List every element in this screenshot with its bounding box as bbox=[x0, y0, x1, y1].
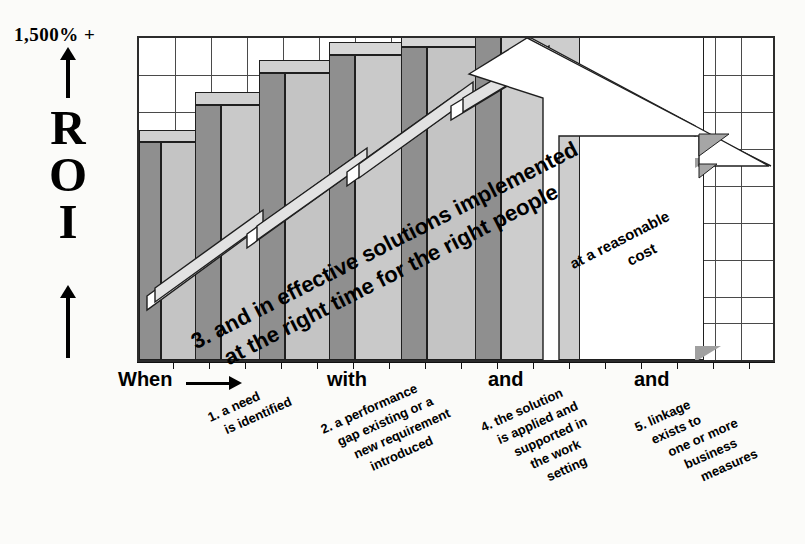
x-tick bbox=[425, 362, 426, 369]
x-tick bbox=[605, 362, 606, 369]
x-tick bbox=[533, 362, 534, 369]
flow-step-and-2: and bbox=[634, 368, 670, 391]
flow-step-and-1: and bbox=[488, 368, 524, 391]
bar-step-wedge-a bbox=[695, 346, 709, 360]
caption-1: 1. a need is identified bbox=[205, 377, 295, 443]
bar-1-side bbox=[139, 142, 161, 360]
x-tick bbox=[713, 362, 714, 369]
flow-step-when: When bbox=[118, 368, 172, 391]
grid-line-v bbox=[741, 38, 742, 360]
right-arrow-icon bbox=[186, 382, 230, 385]
bar-step-wedge-b bbox=[695, 158, 709, 172]
caption-4: 4. the solution is applied and supported… bbox=[478, 380, 605, 502]
y-axis-letter-i: I bbox=[40, 198, 96, 245]
bar-7 bbox=[579, 36, 704, 360]
x-tick bbox=[677, 362, 678, 369]
x-tick bbox=[317, 362, 318, 369]
y-axis-letter-r: R bbox=[40, 104, 96, 151]
caption-5: 5. linkage exists to one or more busines… bbox=[632, 379, 760, 502]
bar-5-side bbox=[401, 47, 427, 360]
y-axis-top-label: 1,500% + bbox=[14, 24, 95, 46]
grid-line-v bbox=[715, 38, 716, 360]
x-tick bbox=[569, 362, 570, 369]
y-axis-title: R O I bbox=[40, 104, 96, 245]
x-tick bbox=[281, 362, 282, 369]
up-arrow-icon-lower bbox=[66, 296, 70, 358]
up-arrow-icon bbox=[66, 58, 70, 98]
wedge-b bbox=[695, 158, 711, 168]
flow-step-with: with bbox=[327, 368, 367, 391]
y-axis-letter-o: O bbox=[40, 151, 96, 198]
wedge-a bbox=[695, 346, 721, 362]
roi-staircase-chart: 1,500% + R O I bbox=[0, 0, 805, 544]
grid-line-v bbox=[773, 38, 774, 360]
x-tick bbox=[173, 362, 174, 369]
bar-7-front bbox=[579, 36, 704, 360]
x-tick bbox=[461, 362, 462, 369]
x-tick bbox=[389, 362, 390, 369]
x-tick bbox=[749, 362, 750, 369]
